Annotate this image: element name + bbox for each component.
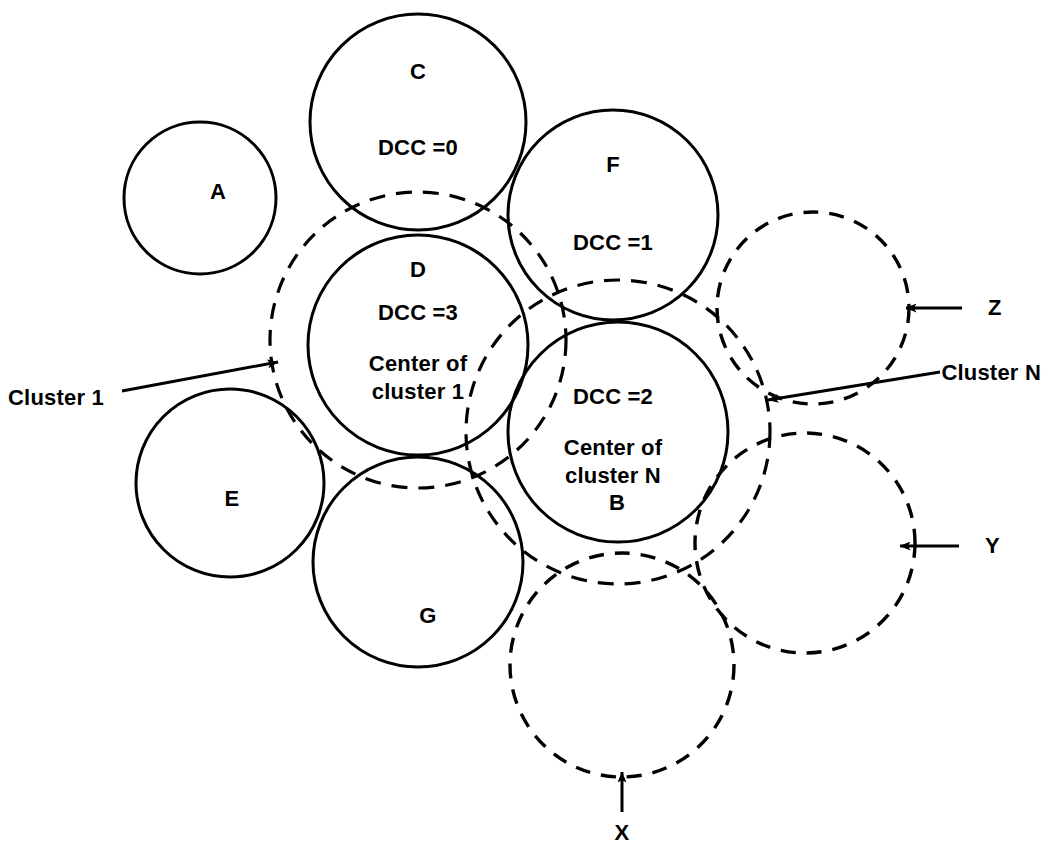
circle-f	[508, 110, 718, 320]
circle-label-g: G	[419, 605, 436, 627]
solid-circle-layer	[124, 14, 728, 667]
circle-g	[313, 457, 523, 667]
circle-e	[136, 389, 324, 577]
y-label: Y	[985, 535, 1000, 557]
circle-label-e: E	[225, 488, 240, 510]
circle-y	[695, 433, 915, 653]
circle-a	[124, 122, 276, 274]
circle-z	[717, 212, 909, 404]
dcc-value-c: DCC =0	[378, 137, 458, 159]
circle-note-b: Center of cluster N	[564, 434, 662, 490]
circle-note-d: Center of cluster 1	[369, 350, 467, 406]
cluster-boundary-cluster-n	[466, 280, 770, 584]
dashed-circle-layer	[510, 212, 915, 777]
dcc-value-f: DCC =1	[573, 232, 653, 254]
leader-line-cluster-1-label	[122, 362, 278, 391]
z-label: Z	[988, 297, 1002, 319]
cluster-n-label: Cluster N	[941, 362, 1041, 384]
circles-svg	[0, 0, 1049, 860]
dcc-value-b: DCC =2	[573, 386, 653, 408]
circle-label-b: B	[609, 492, 625, 514]
circle-label-a: A	[210, 181, 226, 203]
x-label: X	[615, 822, 630, 844]
diagram-canvas: ACDCC =0FDCC =1DDCC =3Center of cluster …	[0, 0, 1049, 860]
leader-line-layer	[122, 308, 962, 812]
circle-label-f: F	[606, 154, 620, 176]
circle-label-c: C	[410, 61, 426, 83]
dcc-value-d: DCC =3	[378, 302, 458, 324]
circle-c	[310, 14, 526, 230]
cluster-1-label: Cluster 1	[8, 387, 104, 409]
circle-label-d: D	[410, 259, 426, 281]
circle-x	[510, 553, 734, 777]
